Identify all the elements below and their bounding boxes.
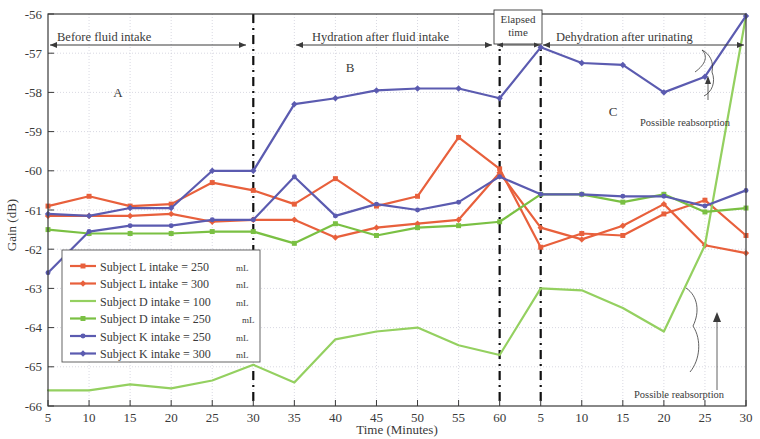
data-point-marker (456, 200, 461, 205)
data-point-marker (579, 231, 584, 236)
y-axis-label: Gain (dB) (4, 199, 19, 251)
data-point-marker (579, 192, 584, 197)
legend-item-label: Subject L intake = 250 (100, 260, 209, 274)
legend-item-unit: mL (236, 298, 249, 308)
data-point-marker (81, 316, 86, 321)
data-point-marker (456, 223, 461, 228)
data-point-marker (620, 233, 625, 238)
x-tick-label: 20 (657, 410, 670, 425)
phase-label-elapsed-line1: Elapsed (501, 13, 536, 25)
chart-root: -56-57-58-59-60-61-62-63-64-65-66 510152… (0, 0, 760, 439)
legend-item-unit: mL (242, 315, 255, 325)
x-tick-label: 20 (165, 410, 178, 425)
y-tick-label: -58 (25, 85, 42, 100)
legend[interactable]: Subject L intake = 250mLSubject L intake… (62, 250, 260, 362)
data-point-marker (292, 174, 297, 179)
annotation-upper-label: Possible reabsorption (640, 117, 731, 128)
data-point-marker (661, 211, 666, 216)
legend-item-label: Subject L intake = 300 (100, 277, 209, 291)
x-tick-label: 15 (616, 410, 629, 425)
data-point-marker (374, 202, 379, 207)
legend-item-unit: mL (236, 350, 249, 360)
data-point-marker (374, 233, 379, 238)
data-point-marker (81, 264, 86, 269)
legend-item-label: Subject D intake = 250 (100, 312, 211, 326)
x-tick-label: 60 (493, 410, 506, 425)
x-tick-label: 30 (247, 410, 260, 425)
data-point-marker (292, 241, 297, 246)
data-point-marker (620, 194, 625, 199)
data-point-marker (81, 334, 86, 339)
x-axis-label: Time (Minutes) (356, 422, 438, 437)
data-point-marker (538, 192, 543, 197)
data-point-marker (210, 217, 215, 222)
data-point-marker (251, 229, 256, 234)
phase-label-elapsed-line2: time (508, 26, 528, 38)
data-point-marker (251, 217, 256, 222)
phase-label-dehydration: Dehydration after urinating (556, 30, 694, 44)
y-tick-label: -60 (25, 163, 42, 178)
data-point-marker (497, 219, 502, 224)
y-tick-label: -65 (25, 359, 42, 374)
annotation-lower-label: Possible reabsorption (634, 389, 725, 400)
legend-item-unit: mL (236, 263, 249, 273)
data-point-marker (128, 223, 133, 228)
phase-label-before-fluid-intake: Before fluid intake (57, 30, 152, 44)
zone-label-a: A (113, 85, 123, 100)
y-tick-label: -62 (25, 242, 42, 257)
zone-label-c: C (609, 104, 618, 119)
data-point-marker (87, 229, 92, 234)
y-tick-label: -61 (25, 203, 42, 218)
data-point-marker (87, 194, 92, 199)
data-point-marker (128, 231, 133, 236)
data-point-marker (456, 135, 461, 140)
x-tick-label: 10 (575, 410, 588, 425)
legend-item-unit: mL (236, 280, 249, 290)
data-point-marker (251, 188, 256, 193)
y-tick-label: -64 (25, 320, 43, 335)
legend-item-label: Subject K intake = 250 (100, 330, 211, 344)
zone-label-b: B (346, 60, 355, 75)
data-point-marker (333, 221, 338, 226)
data-point-marker (292, 202, 297, 207)
x-tick-label: 5 (537, 410, 544, 425)
data-point-marker (415, 194, 420, 199)
legend-item-label: Subject D intake = 100 (100, 295, 211, 309)
y-tick-label: -66 (25, 399, 43, 414)
data-point-marker (333, 213, 338, 218)
x-tick-label: 25 (698, 410, 711, 425)
data-point-marker (702, 198, 707, 203)
phase-bracket-elapsed-time: Elapsed time (494, 10, 542, 48)
data-point-marker (210, 180, 215, 185)
data-point-marker (415, 208, 420, 213)
x-tick-label: 55 (452, 410, 465, 425)
phase-label-hydration: Hydration after fluid intake (312, 30, 450, 44)
x-tick-label: 25 (206, 410, 219, 425)
y-tick-label: -56 (25, 7, 43, 22)
data-point-marker (333, 176, 338, 181)
data-point-marker (169, 223, 174, 228)
x-tick-label: 5 (45, 410, 52, 425)
x-tick-label: 40 (329, 410, 342, 425)
legend-item-label: Subject K intake = 300 (100, 347, 211, 361)
data-point-marker (538, 245, 543, 250)
data-point-marker (497, 174, 502, 179)
x-tick-label: 30 (740, 410, 753, 425)
data-point-marker (415, 225, 420, 230)
x-tick-label: 35 (288, 410, 301, 425)
y-tick-label: -63 (25, 281, 42, 296)
data-point-marker (661, 194, 666, 199)
data-point-marker (169, 231, 174, 236)
gain-vs-time-chart: -56-57-58-59-60-61-62-63-64-65-66 510152… (0, 0, 760, 439)
y-tick-label: -59 (25, 124, 42, 139)
data-point-marker (702, 204, 707, 209)
data-point-marker (620, 200, 625, 205)
data-point-marker (702, 209, 707, 214)
data-point-marker (210, 229, 215, 234)
legend-item-unit: mL (236, 333, 249, 343)
x-tick-label: 15 (124, 410, 137, 425)
y-tick-label: -57 (25, 46, 43, 61)
x-tick-label: 10 (83, 410, 96, 425)
